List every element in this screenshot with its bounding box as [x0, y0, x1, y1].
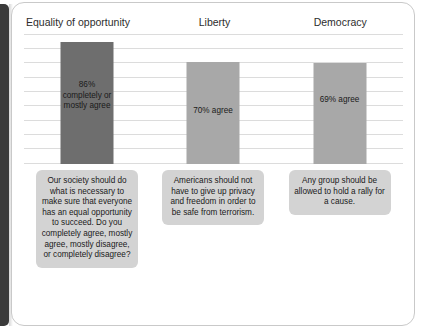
- book-binding-strip: [0, 4, 9, 326]
- chart-bars: 86% completely or mostly agree 70% agree…: [24, 34, 403, 164]
- bar-equality-of-opportunity[interactable]: 86% completely or mostly agree: [61, 42, 114, 164]
- chart-column-headers: Equality of opportunity Liberty Democrac…: [24, 13, 403, 31]
- caption-liberty: Americans should not have to give up pri…: [162, 170, 264, 225]
- bar-value-label-equality-of-opportunity: 86% completely or mostly agree: [61, 80, 114, 111]
- caption-democracy: Any group should be allowed to hold a ra…: [289, 170, 391, 215]
- bar-column-democracy: 69% agree: [276, 34, 403, 164]
- caption-column-equality-of-opportunity: Our society should do what is necessary …: [24, 170, 150, 268]
- bar-column-liberty: 70% agree: [150, 34, 276, 164]
- caption-column-liberty: Americans should not have to give up pri…: [150, 170, 276, 225]
- page-figure: Equality of opportunity Liberty Democrac…: [0, 0, 427, 333]
- caption-column-democracy: Any group should be allowed to hold a ra…: [276, 170, 403, 215]
- bar-value-label-democracy: 69% agree: [318, 95, 362, 105]
- chart-caption-boxes: Our society should do what is necessary …: [24, 170, 403, 320]
- bar-liberty[interactable]: 70% agree: [187, 62, 240, 164]
- column-header-equality-of-opportunity: Equality of opportunity: [24, 13, 152, 31]
- column-header-liberty: Liberty: [152, 13, 278, 31]
- bar-democracy[interactable]: 69% agree: [313, 63, 366, 164]
- bar-value-label-liberty: 70% agree: [191, 106, 235, 116]
- caption-equality-of-opportunity: Our society should do what is necessary …: [36, 170, 138, 268]
- bar-column-equality-of-opportunity: 86% completely or mostly agree: [24, 34, 150, 164]
- column-header-democracy: Democracy: [277, 13, 403, 31]
